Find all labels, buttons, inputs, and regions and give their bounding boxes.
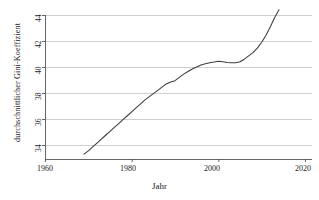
chart-figure: durchschnittlicher Gini-Koeffizient 44 4… xyxy=(0,0,319,200)
tick-marks xyxy=(42,16,306,163)
axis-lines xyxy=(45,15,312,160)
gridlines xyxy=(45,16,312,146)
plot-area xyxy=(0,0,319,200)
data-series-line xyxy=(84,10,279,154)
